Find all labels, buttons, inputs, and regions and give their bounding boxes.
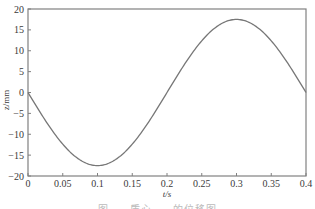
y-tick-label: −15: [8, 150, 24, 161]
x-tick-label: 0.3: [230, 178, 243, 189]
displacement-curve: [28, 19, 306, 165]
y-tick-label: −20: [8, 171, 24, 182]
x-tick-label: 0.25: [193, 178, 211, 189]
figure-caption: 图 ... 质心 ... 的位移图: [0, 201, 315, 209]
y-tick-label: −5: [13, 108, 24, 119]
x-tick-label: 0.4: [300, 178, 313, 189]
y-tick-label: −10: [8, 129, 24, 140]
x-tick-label: 0.05: [54, 178, 72, 189]
displacement-chart: −20−15−10−505101520 00.050.10.150.20.250…: [0, 0, 315, 209]
y-tick-label: 0: [19, 87, 24, 98]
x-tick-label: 0: [26, 178, 31, 189]
y-axis-label: z/mm: [1, 90, 11, 111]
x-axis-label: t/s: [163, 189, 172, 199]
x-tick-label: 0.35: [263, 178, 281, 189]
y-tick-label: 20: [14, 4, 24, 15]
y-tick-label: 15: [14, 24, 24, 35]
x-tick-label: 0.15: [124, 178, 142, 189]
x-axis-ticks: 00.050.10.150.20.250.30.350.4: [26, 173, 313, 189]
y-tick-label: 5: [19, 66, 24, 77]
x-tick-label: 0.1: [91, 178, 104, 189]
y-tick-label: 10: [14, 45, 24, 56]
x-tick-label: 0.2: [161, 178, 174, 189]
